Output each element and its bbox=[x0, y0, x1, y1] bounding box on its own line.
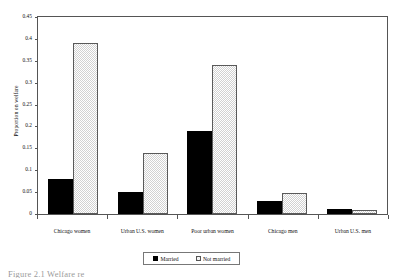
legend-entry: Married bbox=[153, 256, 179, 262]
bar-married bbox=[257, 201, 282, 214]
x-axis-tick-mark bbox=[248, 215, 249, 219]
y-axis-tick-label: 0.15 bbox=[23, 144, 32, 150]
bar-married bbox=[48, 179, 73, 214]
x-axis-tick-mark bbox=[107, 215, 108, 219]
bar-not-married bbox=[212, 65, 237, 214]
bar-not-married bbox=[282, 193, 307, 214]
legend-label: Not married bbox=[203, 256, 230, 262]
bar-married bbox=[118, 192, 143, 214]
y-axis-tick-label: 0.25 bbox=[23, 101, 32, 107]
y-axis-tick-label: 0 bbox=[29, 210, 32, 216]
x-axis-tick-mark bbox=[388, 215, 389, 219]
bar-group bbox=[247, 17, 317, 214]
x-axis-category-label: Chicago women bbox=[37, 228, 107, 234]
y-axis-tick-label: 0.3 bbox=[25, 79, 32, 85]
bar-group bbox=[38, 17, 108, 214]
x-axis-category-label: Urban U.S. women bbox=[107, 228, 177, 234]
figure-caption: Figure 2.1 Welfare re bbox=[8, 269, 403, 278]
bar-married bbox=[327, 209, 352, 214]
x-axis-category-label: Poor urban women bbox=[177, 228, 247, 234]
y-axis-tick-label: 0.45 bbox=[23, 13, 32, 19]
bar-groups bbox=[38, 17, 387, 214]
bar-not-married bbox=[73, 43, 98, 214]
y-axis-tick-label: 0.05 bbox=[23, 188, 32, 194]
x-axis-ticks bbox=[37, 215, 388, 219]
y-axis-tick-label: 0.1 bbox=[25, 166, 32, 172]
x-axis-labels: Chicago womenUrban U.S. womenPoor urban … bbox=[37, 228, 388, 234]
y-axis-tick-label: 0.4 bbox=[25, 35, 32, 41]
bar-not-married bbox=[352, 210, 377, 214]
x-axis-tick-mark bbox=[177, 215, 178, 219]
chart-legend: MarriedNot married bbox=[143, 252, 240, 265]
y-axis-title: Proportion on welfare bbox=[13, 51, 19, 171]
bar-group bbox=[317, 17, 387, 214]
y-axis-tick-label: 0.35 bbox=[23, 57, 32, 63]
legend-label: Married bbox=[161, 256, 179, 262]
x-axis-category-label: Chicago men bbox=[248, 228, 318, 234]
x-axis-category-label: Urban U.S. men bbox=[318, 228, 388, 234]
legend-swatch-not-married bbox=[196, 256, 201, 261]
x-axis-tick-mark bbox=[37, 215, 38, 219]
bar-group bbox=[178, 17, 248, 214]
legend-swatch-married bbox=[153, 256, 158, 261]
x-axis-tick-mark bbox=[318, 215, 319, 219]
bar-not-married bbox=[143, 153, 168, 214]
legend-entry: Not married bbox=[196, 256, 231, 262]
bar-married bbox=[187, 131, 212, 214]
bar-group bbox=[108, 17, 178, 214]
figure-container: Proportion on welfare 00.050.10.150.20.2… bbox=[0, 0, 407, 278]
plot-area: 00.050.10.150.20.250.30.350.40.45 bbox=[37, 16, 388, 215]
y-axis-tick-label: 0.2 bbox=[25, 122, 32, 128]
